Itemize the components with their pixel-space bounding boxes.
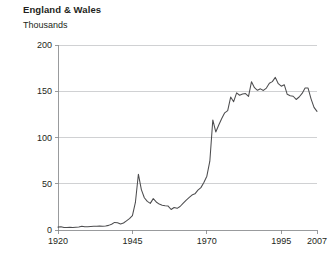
y-axis-tick-labels: 050100150200 (37, 40, 52, 235)
x-tick-label: 1945 (122, 236, 142, 246)
y-tick-marks (55, 45, 58, 230)
x-tick-label: 1995 (271, 236, 291, 246)
x-tick-label: 2007 (307, 236, 327, 246)
y-tick-label: 200 (37, 40, 52, 50)
line-chart-plot: 050100150200 19201945197019952007 (0, 0, 333, 256)
x-tick-label: 1970 (197, 236, 217, 246)
y-tick-label: 100 (37, 133, 52, 143)
y-tick-label: 150 (37, 86, 52, 96)
y-tick-label: 0 (47, 225, 52, 235)
gridlines (58, 45, 317, 184)
data-series-line (58, 77, 317, 227)
y-tick-label: 50 (42, 179, 52, 189)
x-tick-label: 1920 (48, 236, 68, 246)
chart-figure: England & Wales Thousands 050100150200 1… (0, 0, 333, 256)
x-axis-tick-labels: 19201945197019952007 (48, 236, 327, 246)
